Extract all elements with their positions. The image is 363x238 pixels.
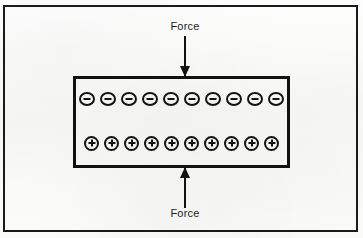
positive-charge-icon (144, 136, 159, 151)
plus-bar-v (171, 140, 173, 147)
negative-charge-icon (184, 92, 200, 106)
negative-charge-icon (121, 92, 137, 106)
crystal-block (73, 76, 290, 168)
minus-bar (105, 98, 112, 100)
plus-bar-v (111, 140, 113, 147)
arrowhead-up-icon (180, 167, 190, 178)
positive-charge-icon (164, 136, 179, 151)
positive-charge-icon (224, 136, 239, 151)
minus-bar (126, 98, 133, 100)
positive-charge-icon (184, 136, 199, 151)
negative-charge-icon (79, 92, 95, 106)
minus-bar (210, 98, 217, 100)
positive-charge-icon (244, 136, 259, 151)
minus-bar (252, 98, 259, 100)
bottom-force-label: Force (170, 207, 199, 219)
positive-charge-icon (204, 136, 219, 151)
minus-bar (168, 98, 175, 100)
bottom-force-arrow-up-icon (184, 168, 186, 208)
top-force-arrow-down-icon (184, 36, 186, 76)
negative-charge-icon (268, 92, 284, 106)
negative-charge-icon (247, 92, 263, 106)
plus-bar-v (131, 140, 133, 147)
positive-charge-icon (104, 136, 119, 151)
plus-bar-v (231, 140, 233, 147)
positive-charge-row (76, 135, 287, 151)
negative-charge-icon (163, 92, 179, 106)
plus-bar-v (91, 140, 93, 147)
plus-bar-v (271, 140, 273, 147)
minus-bar (84, 98, 91, 100)
negative-charge-icon (205, 92, 221, 106)
figure-root: Force (0, 0, 363, 238)
positive-charge-icon (84, 136, 99, 151)
minus-bar (273, 98, 280, 100)
plus-bar-v (211, 140, 213, 147)
negative-charge-icon (142, 92, 158, 106)
minus-bar (189, 98, 196, 100)
negative-charge-row (76, 91, 287, 107)
positive-charge-icon (124, 136, 139, 151)
positive-charge-icon (264, 136, 279, 151)
plus-bar-v (251, 140, 253, 147)
plus-bar-v (151, 140, 153, 147)
minus-bar (231, 98, 238, 100)
minus-bar (147, 98, 154, 100)
negative-charge-icon (226, 92, 242, 106)
top-force-label: Force (170, 20, 199, 32)
plus-bar-v (191, 140, 193, 147)
negative-charge-icon (100, 92, 116, 106)
